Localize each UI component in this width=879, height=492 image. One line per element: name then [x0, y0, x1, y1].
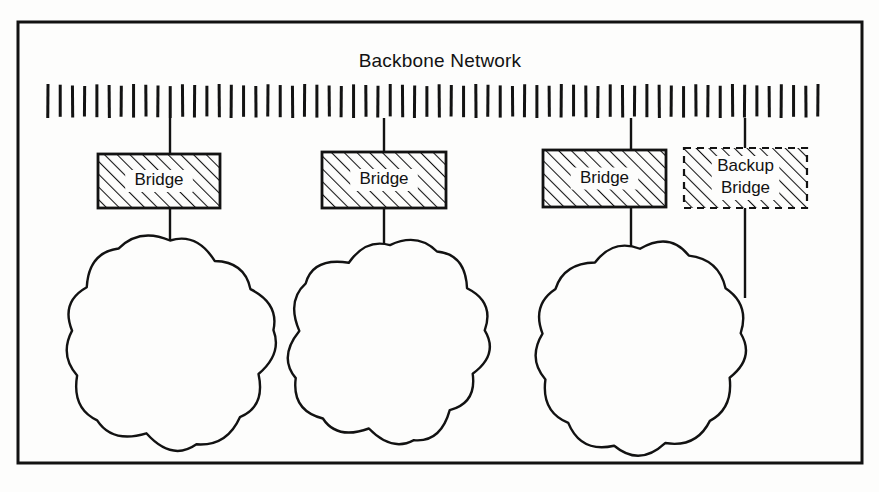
bridge-3[interactable]: Bridge	[543, 150, 666, 207]
bridge-3-label: Bridge	[580, 168, 629, 187]
bridge-2-label: Bridge	[359, 169, 408, 188]
backup-bridge-label: Backup	[717, 156, 774, 175]
network-clouds	[67, 235, 746, 455]
backup-bridge[interactable]: BackupBridge	[684, 148, 807, 208]
page-title: Backbone Network	[359, 50, 522, 71]
diagram-canvas: Backbone Network BridgeBridgeBridgeBacku…	[0, 0, 879, 492]
backup-bridge-label: Bridge	[721, 178, 770, 197]
bridge-1[interactable]: Bridge	[98, 154, 220, 208]
bridge-1-label: Bridge	[134, 170, 183, 189]
bridge-topology-figure: Backbone Network BridgeBridgeBridgeBacku…	[0, 0, 879, 492]
bridge-2[interactable]: Bridge	[322, 152, 446, 208]
